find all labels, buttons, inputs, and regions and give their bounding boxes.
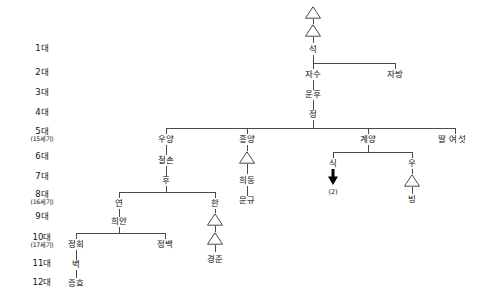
generation-label-3: 3대 [18, 88, 66, 97]
person-node-jeunghyo: 증효 [68, 279, 84, 288]
person-node-jeong: 정 [309, 110, 317, 119]
generation-label-11: 11대 [18, 259, 66, 268]
person-node-uyang: 우양 [158, 135, 174, 144]
person-node-bing: 빙 [408, 195, 416, 204]
sibling-bar-heean-children [76, 233, 165, 234]
person-node-han: 한 [211, 199, 219, 208]
omitted-generation-triangle-u [404, 174, 421, 187]
person-node-heungyang: 흥양 [239, 135, 255, 144]
generation-label-8: 8대 (16세기) [18, 190, 66, 205]
person-node-hu: 후 [162, 176, 170, 185]
connector-uyang-to-cheolson [166, 145, 167, 155]
generation-label-6-main: 6대 [18, 152, 66, 161]
generation-label-1-main: 1대 [18, 44, 66, 53]
sibling-bar-hu-children [119, 192, 215, 193]
omitted-generation-triangle-han-2 [207, 232, 224, 245]
person-node-byeok: 벽 [72, 260, 80, 269]
generation-label-4: 4대 [18, 108, 66, 117]
generation-label-10-sub: (17세기) [18, 242, 66, 249]
generation-label-11-main: 11대 [18, 259, 66, 268]
connector-triangle-han-2-to-gyeongjun [215, 245, 216, 252]
generation-label-9-main: 9대 [18, 212, 66, 221]
genealogy-chart: 1대 2대 3대 4대 5대 (15세기) 6대 7대 8대 (16세기) 9대… [0, 0, 479, 306]
person-node-unhu: 운후 [305, 90, 321, 99]
person-node-yeon: 연 [115, 199, 123, 208]
person-node-seok: 석 [309, 45, 317, 54]
sibling-bar-gyeyang-children [333, 152, 412, 153]
generation-label-12-main: 12대 [18, 278, 66, 287]
person-node-jeonghoe: 정회 [68, 240, 84, 249]
generation-label-3-main: 3대 [18, 88, 66, 97]
generation-label-1: 1대 [18, 44, 66, 53]
omitted-generation-triangle-han-1 [207, 213, 224, 226]
generation-label-5: 5대 (15세기) [18, 127, 66, 142]
person-node-jasu: 자수 [305, 70, 321, 79]
person-node-gyeyang: 계양 [360, 135, 376, 144]
generation-label-2-main: 2대 [18, 68, 66, 77]
person-node-ddal-yeoseot: 딸 여섯 [438, 135, 466, 144]
generation-label-4-main: 4대 [18, 108, 66, 117]
connector-seok-down [313, 55, 314, 63]
descendant-count-sik: (2) [328, 188, 337, 196]
person-node-heean: 희안 [111, 217, 127, 226]
generation-label-12: 12대 [18, 278, 66, 287]
generation-label-10: 10대 (17세기) [18, 233, 66, 248]
connector-gyeyang-down [368, 145, 369, 152]
connector-tri2-to-seok [313, 37, 314, 43]
person-node-mungyu: 문규 [239, 196, 255, 205]
omitted-generation-triangle-second [305, 24, 322, 37]
omitted-generation-triangle-top [305, 6, 322, 19]
person-node-heedong: 희동 [239, 176, 255, 185]
person-node-cheolson: 철손 [158, 156, 174, 165]
omitted-generation-triangle-heungyang [239, 151, 256, 164]
connector-jeong-down [313, 120, 314, 128]
generation-label-6: 6대 [18, 152, 66, 161]
generation-label-5-sub: (15세기) [18, 136, 66, 143]
sibling-bar-gen2 [313, 63, 395, 64]
generation-label-8-sub: (16세기) [18, 199, 66, 206]
connector-triangle-to-heedong [247, 164, 248, 174]
person-node-jeongbaek: 정백 [157, 240, 173, 249]
person-node-gyeongjun: 경준 [207, 255, 223, 264]
sibling-bar-gen5 [166, 128, 455, 129]
generation-label-7-main: 7대 [18, 172, 66, 181]
continues-downward-arrow-icon [328, 169, 339, 185]
person-node-sik: 식 [329, 159, 337, 168]
person-node-jabang: 자방 [387, 70, 403, 79]
person-node-u: 우 [408, 159, 416, 168]
generation-label-9: 9대 [18, 212, 66, 221]
generation-label-7: 7대 [18, 172, 66, 181]
generation-label-2: 2대 [18, 68, 66, 77]
